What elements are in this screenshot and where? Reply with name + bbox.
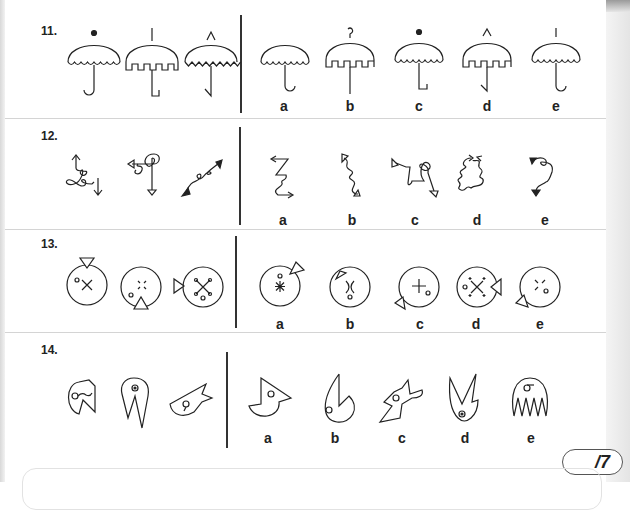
option-c-figure[interactable] — [390, 155, 440, 201]
option-label-a[interactable]: a — [273, 212, 293, 228]
option-label-e[interactable]: e — [530, 316, 550, 332]
option-a-figure[interactable] — [259, 36, 311, 96]
option-label-e[interactable]: e — [535, 212, 555, 228]
option-c-figure[interactable] — [393, 265, 441, 317]
answer-panel — [22, 468, 602, 510]
option-label-d[interactable]: d — [455, 430, 475, 446]
question-number: 14. — [41, 343, 58, 357]
option-a-figure[interactable] — [268, 155, 296, 201]
curly-figure-3 — [180, 158, 224, 198]
option-label-d[interactable]: d — [477, 98, 497, 114]
question-divider — [240, 15, 242, 113]
option-d-figure[interactable] — [457, 152, 495, 200]
option-label-b[interactable]: b — [342, 212, 362, 228]
question-number: 12. — [41, 129, 58, 143]
option-label-e[interactable]: e — [521, 430, 541, 446]
option-label-d[interactable]: d — [466, 316, 486, 332]
question-divider — [226, 352, 228, 448]
circle-figure-1 — [64, 258, 110, 306]
option-label-c[interactable]: c — [410, 316, 430, 332]
option-c-figure[interactable] — [393, 26, 445, 96]
option-d-figure[interactable] — [461, 26, 513, 96]
option-label-a[interactable]: a — [258, 430, 278, 446]
option-label-d[interactable]: d — [467, 212, 487, 228]
option-label-c[interactable]: c — [405, 212, 425, 228]
option-e-figure[interactable] — [510, 376, 550, 422]
option-label-b[interactable]: b — [340, 98, 360, 114]
option-label-e[interactable]: e — [546, 98, 566, 114]
score-label: /7 — [595, 452, 610, 473]
option-c-figure[interactable] — [378, 378, 426, 426]
option-e-figure[interactable] — [514, 265, 562, 315]
umbrella-figure-3 — [183, 28, 239, 100]
option-a-figure[interactable] — [247, 376, 295, 424]
option-e-figure[interactable] — [526, 156, 562, 200]
option-label-b[interactable]: b — [340, 316, 360, 332]
option-label-a[interactable]: a — [274, 98, 294, 114]
head-figure-3 — [168, 382, 216, 420]
option-b-figure[interactable] — [324, 24, 376, 96]
option-b-figure[interactable] — [338, 152, 366, 200]
head-figure-2 — [118, 376, 152, 432]
page-edge-right — [606, 0, 630, 482]
circle-figure-3 — [170, 265, 226, 311]
question-number: 13. — [41, 237, 58, 251]
question-divider — [239, 127, 241, 225]
option-b-figure[interactable] — [321, 372, 357, 426]
option-label-b[interactable]: b — [325, 430, 345, 446]
circle-figure-2 — [118, 265, 164, 323]
option-e-figure[interactable] — [530, 28, 582, 96]
question-number: 11. — [41, 24, 57, 38]
umbrella-figure-2 — [124, 28, 180, 100]
option-d-figure[interactable] — [446, 372, 482, 428]
option-label-c[interactable]: c — [409, 98, 429, 114]
curly-figure-2 — [124, 150, 166, 196]
option-label-c[interactable]: c — [392, 430, 412, 446]
head-figure-1 — [65, 378, 99, 418]
option-b-figure[interactable] — [328, 265, 372, 309]
option-a-figure[interactable] — [258, 262, 308, 308]
question-divider — [235, 236, 237, 328]
option-d-figure[interactable] — [455, 265, 503, 309]
curly-figure-1 — [64, 152, 106, 198]
umbrella-figure-1 — [66, 30, 122, 100]
option-label-a[interactable]: a — [270, 316, 290, 332]
